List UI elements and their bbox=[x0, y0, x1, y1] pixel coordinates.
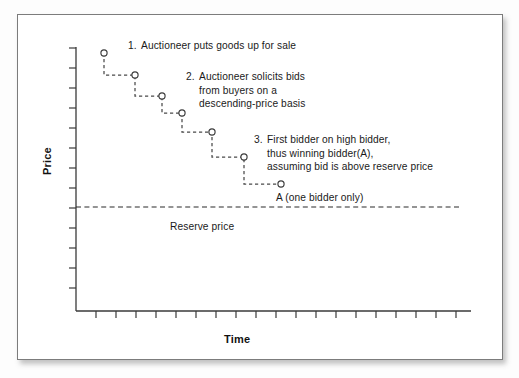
page-background: 1.Auctioneer puts goods up for sale 2.Au… bbox=[0, 0, 519, 378]
price-point-marker bbox=[179, 110, 185, 116]
annotation-step-2-line-3: descending-price basis bbox=[199, 98, 305, 109]
reserve-price-label: Reserve price bbox=[170, 220, 234, 234]
winning-bidder-label: A (one bidder only) bbox=[276, 191, 363, 205]
price-point-marker bbox=[159, 93, 165, 99]
annotation-step-3-line-1: First bidder on high bidder, bbox=[267, 134, 390, 145]
annotation-step-3-line-2: thus winning bidder(A), bbox=[267, 148, 374, 159]
dutch-auction-chart: 1.Auctioneer puts goods up for sale 2.Au… bbox=[18, 15, 504, 361]
price-point-marker bbox=[241, 154, 247, 160]
annotation-step-2-line-1: Auctioneer solicits bids bbox=[199, 71, 305, 82]
annotation-step-2: 2.Auctioneer solicits bids from buyers o… bbox=[186, 70, 305, 111]
x-axis-title: Time bbox=[224, 333, 250, 345]
annotation-step-3: 3.First bidder on high bidder, thus winn… bbox=[254, 133, 433, 174]
annotation-step-1-line-1: Auctioneer puts goods up for sale bbox=[141, 40, 296, 51]
x-axis-ticks bbox=[96, 311, 456, 318]
annotation-step-3-number: 3. bbox=[254, 133, 267, 147]
price-point-marker bbox=[278, 181, 284, 187]
figure-card: 1.Auctioneer puts goods up for sale 2.Au… bbox=[17, 14, 503, 360]
price-point-marker bbox=[101, 50, 107, 56]
annotation-step-2-line-2: from buyers on a bbox=[199, 85, 277, 96]
y-axis-ticks bbox=[69, 48, 76, 288]
annotation-step-3-line-3: assuming bid is above reserve price bbox=[267, 161, 433, 172]
annotation-step-2-number: 2. bbox=[186, 70, 199, 84]
annotation-step-1-number: 1. bbox=[128, 39, 141, 53]
chart-svg bbox=[18, 15, 504, 361]
price-point-marker bbox=[209, 129, 215, 135]
annotation-step-1: 1.Auctioneer puts goods up for sale bbox=[128, 39, 296, 53]
price-point-marker bbox=[132, 72, 138, 78]
y-axis-title: Price bbox=[41, 126, 53, 196]
